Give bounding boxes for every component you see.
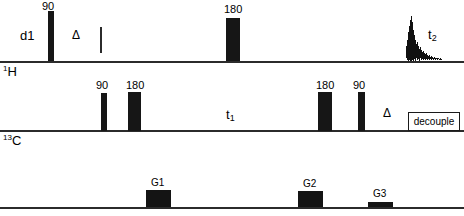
gradient-g2 <box>298 191 323 207</box>
proton-phase-tick <box>100 27 102 53</box>
carbon-pulse-90-first <box>101 93 107 131</box>
proton-pulse-180 <box>226 18 240 61</box>
t1-subscript: 1 <box>230 113 235 123</box>
pulse-sequence-diagram: 1H d1 90 Δ 180 <box>0 0 464 216</box>
gradient-g1 <box>146 190 171 207</box>
decouple-block[interactable]: decouple <box>408 112 460 131</box>
proton-label-main: H <box>7 64 16 79</box>
carbon-label-main: C <box>12 133 21 148</box>
t2-subscript: 2 <box>432 33 437 43</box>
gradient-g3 <box>368 202 393 207</box>
proton-pulse-180-label: 180 <box>224 4 242 15</box>
proton-channel-baseline <box>0 61 464 63</box>
proton-delta-label: Δ <box>72 30 80 41</box>
proton-channel-label: 1H <box>3 65 17 78</box>
gradient-g2-label: G2 <box>303 179 316 189</box>
carbon-label-superscript: 13 <box>3 133 12 142</box>
gradient-g3-label: G3 <box>373 189 386 199</box>
proton-pulse-90 <box>48 11 54 61</box>
carbon-channel-label: 13C <box>3 134 21 147</box>
carbon-pulse-90-second <box>358 92 365 131</box>
carbon-pulse-180-first-label: 180 <box>126 80 144 91</box>
gradient-g1-label: G1 <box>151 178 164 188</box>
proton-pulse-90-label: 90 <box>42 1 54 12</box>
carbon-pulse-180-second-label: 180 <box>316 80 334 91</box>
gradient-channel-baseline <box>0 207 464 209</box>
carbon-channel-baseline <box>0 130 464 132</box>
carbon-delta-label: Δ <box>383 108 391 119</box>
proton-d1-label: d1 <box>20 30 34 41</box>
carbon-pulse-180-second <box>318 92 332 131</box>
proton-acquisition-label: t2 <box>428 28 437 41</box>
carbon-pulse-180-first <box>128 92 141 131</box>
carbon-pulse-90-first-label: 90 <box>96 80 108 91</box>
carbon-pulse-90-second-label: 90 <box>353 80 365 91</box>
carbon-evolution-label: t1 <box>226 108 235 121</box>
